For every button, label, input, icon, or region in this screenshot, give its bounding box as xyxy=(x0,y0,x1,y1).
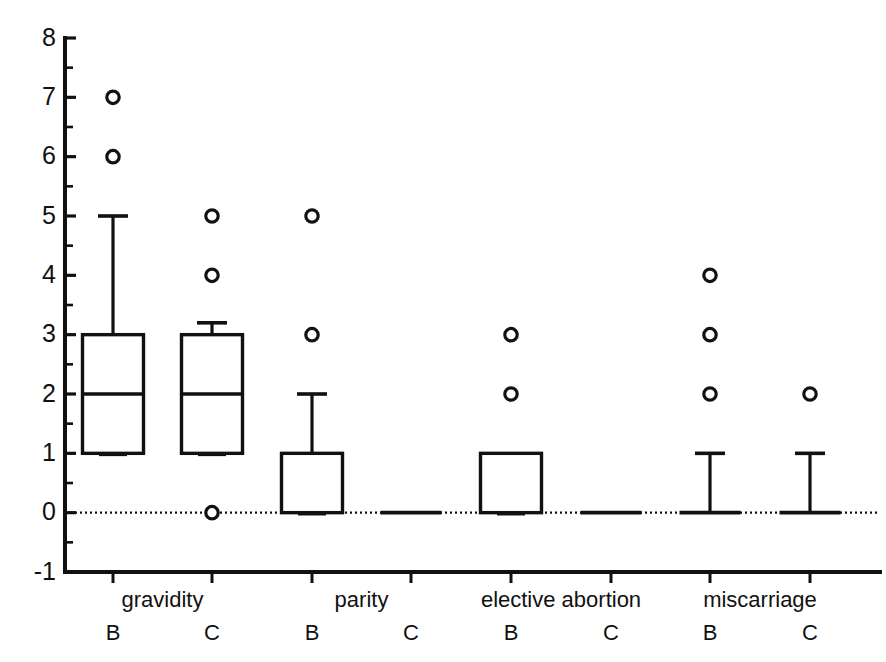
outlier-point[interactable] xyxy=(306,328,318,340)
y-tick-label: 7 xyxy=(42,82,56,110)
subgroup-label: B xyxy=(106,620,121,645)
box-plot-item[interactable] xyxy=(282,210,343,514)
box-series xyxy=(83,91,841,519)
y-tick-label: 2 xyxy=(42,379,56,407)
category-labels: gravidityparityelective abortionmiscarri… xyxy=(106,587,818,645)
outlier-point[interactable] xyxy=(704,269,716,281)
subgroup-label: B xyxy=(504,620,519,645)
subgroup-label: B xyxy=(703,620,718,645)
y-tick-label: 8 xyxy=(42,23,56,51)
box-body[interactable] xyxy=(481,453,542,512)
subgroup-label: C xyxy=(603,620,619,645)
y-tick-label: 1 xyxy=(42,438,56,466)
group-label: gravidity xyxy=(122,587,204,612)
x-axis xyxy=(65,572,880,583)
outlier-point[interactable] xyxy=(306,210,318,222)
box-plot-chart: -1012345678 gravidityparityelective abor… xyxy=(0,0,886,662)
y-tick-label: 3 xyxy=(42,319,56,347)
outlier-point[interactable] xyxy=(505,388,517,400)
y-tick-label: 5 xyxy=(42,201,56,229)
y-tick-label: -1 xyxy=(34,557,56,585)
outlier-point[interactable] xyxy=(206,506,218,518)
outlier-point[interactable] xyxy=(804,388,816,400)
box-plot-item[interactable] xyxy=(780,388,841,513)
y-tick-label: 0 xyxy=(42,497,56,525)
outlier-point[interactable] xyxy=(704,388,716,400)
outlier-point[interactable] xyxy=(107,91,119,103)
subgroup-label: C xyxy=(204,620,220,645)
y-tick-label: 6 xyxy=(42,141,56,169)
box-plot-item[interactable] xyxy=(182,210,243,519)
box-body[interactable] xyxy=(282,453,343,512)
box-plot-item[interactable] xyxy=(680,269,741,513)
outlier-point[interactable] xyxy=(206,269,218,281)
box-plot-svg: -1012345678 gravidityparityelective abor… xyxy=(0,0,886,662)
outlier-point[interactable] xyxy=(505,328,517,340)
box-plot-item[interactable] xyxy=(83,91,144,454)
outlier-point[interactable] xyxy=(704,328,716,340)
y-tick-label: 4 xyxy=(42,260,56,288)
subgroup-label: C xyxy=(403,620,419,645)
subgroup-label: B xyxy=(305,620,320,645)
outlier-point[interactable] xyxy=(107,150,119,162)
y-axis: -1012345678 xyxy=(34,23,76,585)
subgroup-label: C xyxy=(802,620,818,645)
group-label: elective abortion xyxy=(481,587,641,612)
box-plot-item[interactable] xyxy=(481,328,542,513)
group-label: miscarriage xyxy=(703,587,817,612)
outlier-point[interactable] xyxy=(206,210,218,222)
group-label: parity xyxy=(335,587,389,612)
